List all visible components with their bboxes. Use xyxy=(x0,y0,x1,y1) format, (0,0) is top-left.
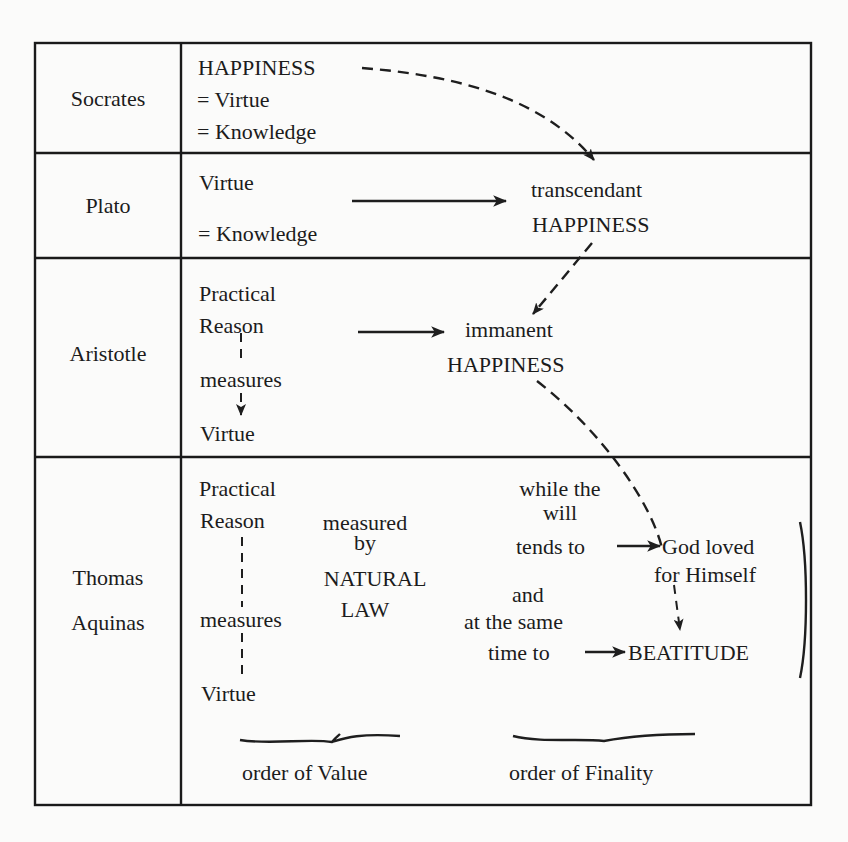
plato-knowledge: = Knowledge xyxy=(198,221,317,246)
aquinas-virtue: Virtue xyxy=(201,681,256,706)
will-while-the: while the xyxy=(500,476,620,501)
target-beatitude: BEATITUDE xyxy=(628,640,749,665)
philosopher-thomas: Thomas xyxy=(35,565,181,590)
brace-order-of-value xyxy=(240,734,400,742)
dashed-arrow-socrates-to-plato xyxy=(362,68,594,160)
target-for-himself: for Himself xyxy=(654,562,756,587)
aquinas-by: by xyxy=(300,530,430,555)
aquinas-natural: NATURAL xyxy=(300,566,450,591)
aristotle-reason: Reason xyxy=(199,313,264,338)
right-bracket xyxy=(800,522,806,678)
socrates-knowledge: = Knowledge xyxy=(197,119,316,144)
same-time-at-the-same: at the same xyxy=(464,609,563,634)
philosopher-aquinas: Aquinas xyxy=(35,610,181,635)
target-god-loved: God loved xyxy=(662,534,754,559)
table-frame xyxy=(35,43,811,805)
aquinas-practical: Practical xyxy=(199,476,276,501)
label-order-of-finality: order of Finality xyxy=(509,760,653,785)
same-time-time-to: time to xyxy=(488,640,550,665)
aristotle-virtue: Virtue xyxy=(200,421,255,446)
aquinas-reason: Reason xyxy=(200,508,265,533)
plato-happiness: HAPPINESS xyxy=(532,212,649,237)
aquinas-law: LAW xyxy=(300,597,430,622)
aquinas-measures: measures xyxy=(200,607,282,632)
will-will: will xyxy=(510,500,610,525)
socrates-happiness: HAPPINESS xyxy=(198,55,315,80)
same-time-and: and xyxy=(488,582,568,607)
dashed-arrow-plato-to-aristotle xyxy=(533,243,592,314)
aristotle-measures: measures xyxy=(200,367,282,392)
will-tends-to: tends to xyxy=(516,534,585,559)
diagram-canvas xyxy=(0,0,848,842)
aristotle-happiness: HAPPINESS xyxy=(447,352,564,377)
aristotle-immanent: immanent xyxy=(465,317,553,342)
dashed-arrow-god-to-beatitude xyxy=(674,585,680,630)
philosopher-socrates: Socrates xyxy=(35,86,181,111)
plato-transcendant: transcendant xyxy=(531,177,642,202)
socrates-virtue: = Virtue xyxy=(197,87,269,112)
philosopher-aristotle: Aristotle xyxy=(35,341,181,366)
brace-order-of-finality xyxy=(513,734,695,741)
aristotle-practical: Practical xyxy=(199,281,276,306)
philosopher-plato: Plato xyxy=(35,193,181,218)
plato-virtue: Virtue xyxy=(199,170,254,195)
label-order-of-value: order of Value xyxy=(242,760,367,785)
